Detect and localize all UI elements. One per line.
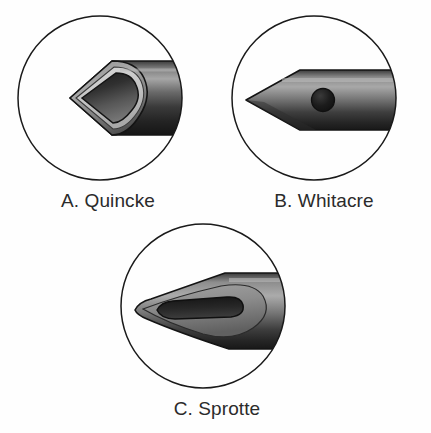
quincke-artwork bbox=[70, 61, 193, 135]
panel-quincke: A. Quincke bbox=[8, 14, 208, 224]
whitacre-artwork bbox=[246, 70, 409, 130]
caption-whitacre: B. Whitacre bbox=[224, 190, 424, 212]
caption-sprotte: C. Sprotte bbox=[117, 398, 317, 420]
panel-sprotte: C. Sprotte bbox=[117, 222, 317, 433]
quincke-needle-icon bbox=[8, 14, 208, 189]
whitacre-side-port bbox=[312, 89, 335, 112]
sprotte-artwork bbox=[135, 273, 299, 349]
panel-whitacre: B. Whitacre bbox=[224, 14, 424, 224]
sprotte-needle-icon bbox=[117, 222, 317, 397]
spinal-needle-tips-figure: A. Quincke bbox=[0, 0, 431, 433]
caption-quincke: A. Quincke bbox=[8, 190, 208, 212]
whitacre-needle-icon bbox=[224, 14, 424, 189]
